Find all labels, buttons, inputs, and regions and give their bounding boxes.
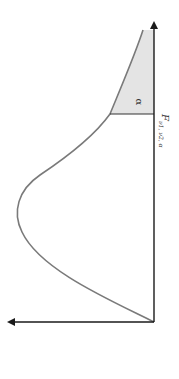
f-distribution-diagram: α Fν1, ν2, α: [0, 0, 179, 379]
alpha-label: α: [134, 99, 145, 106]
density-axis-arrow-icon: [7, 318, 15, 326]
alpha-tail-region: [110, 30, 154, 114]
critical-value-label: Fν1, ν2, α: [158, 113, 171, 148]
f-axis-arrow-icon: [150, 21, 158, 29]
critical-value-subscript: ν1, ν2, α: [158, 121, 165, 148]
